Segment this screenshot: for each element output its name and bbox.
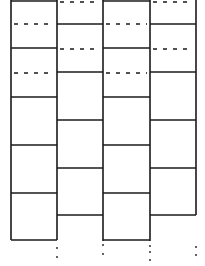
- tick-mark: [56, 247, 58, 249]
- tick-mark: [195, 246, 197, 248]
- tick-mark: [149, 245, 151, 247]
- tick-mark: [56, 256, 58, 258]
- tick-mark: [102, 244, 104, 246]
- tick-mark: [149, 259, 151, 261]
- brick-pattern-diagram: [0, 0, 205, 266]
- tick-mark: [149, 251, 151, 253]
- tick-mark: [195, 254, 197, 256]
- tick-mark: [102, 253, 104, 255]
